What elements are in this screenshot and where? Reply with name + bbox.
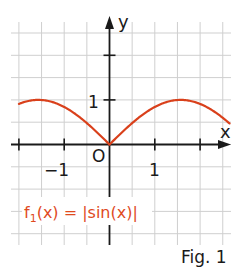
x-tick-label-neg-1: −1 xyxy=(44,160,69,180)
y-axis-arrow-icon xyxy=(105,16,114,29)
x-tick-label-1: 1 xyxy=(149,160,160,180)
y-tick-label-1: 1 xyxy=(88,92,99,112)
y-axis-label: y xyxy=(118,11,129,32)
formula-label: f1(x) = |sin(x)| xyxy=(24,203,138,225)
x-axis-label: x xyxy=(220,121,231,142)
origin-label: O xyxy=(92,146,105,166)
figure-caption: Fig. 1 xyxy=(181,247,227,267)
